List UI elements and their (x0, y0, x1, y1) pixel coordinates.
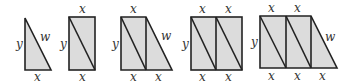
label-y: y (59, 37, 67, 51)
label-x-top-1: x (199, 2, 206, 16)
label-y: y (15, 37, 23, 51)
label-x: x (34, 70, 41, 82)
triangle-sequence-diagram: y w x x y x x y w x x x x y x x (0, 0, 352, 82)
shape-trapezoid-2: x x y w x x x (250, 1, 337, 82)
label-x-bottom-1: x (199, 70, 206, 82)
label-x-bottom-2: x (294, 69, 301, 82)
label-x-top: x (79, 2, 86, 16)
label-x-top: x (130, 2, 137, 16)
shape-trapezoid-1: x y w x x (111, 2, 172, 82)
label-y: y (181, 37, 189, 51)
label-w: w (325, 30, 336, 44)
label-x-top-1: x (268, 1, 275, 15)
label-x-bottom-1: x (130, 70, 137, 82)
shape-rectangle-2: x x y x x (181, 2, 242, 82)
shape-triangle: y w x (15, 18, 51, 82)
label-x-bottom: x (79, 70, 86, 82)
label-x-bottom-3: x (319, 69, 326, 82)
label-x-top-2: x (225, 2, 232, 16)
label-x-bottom-2: x (225, 70, 232, 82)
label-x-bottom-1: x (268, 69, 275, 82)
label-y: y (250, 35, 258, 49)
label-y: y (111, 37, 119, 51)
label-x-bottom-2: x (155, 70, 162, 82)
label-w: w (40, 30, 51, 44)
label-w: w (161, 29, 172, 43)
label-x-top-2: x (294, 1, 301, 15)
shape-rectangle-1: x y x (59, 2, 95, 82)
